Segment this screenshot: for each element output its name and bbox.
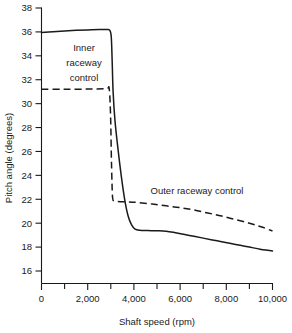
- y-tick-label-34: 34: [21, 50, 32, 61]
- x-axis-minor-ticks: [65, 284, 250, 290]
- y-tick-label-20: 20: [21, 218, 32, 229]
- y-tick-label-38: 38: [21, 2, 32, 13]
- x-tick-label-0: 0: [39, 293, 44, 304]
- y-axis-title: Pitch angle (degrees): [3, 113, 14, 203]
- x-tick-label-4000: 4,000: [122, 293, 146, 304]
- y-tick-label-28: 28: [21, 122, 32, 133]
- y-axis-ticks: [36, 8, 42, 271]
- inner-raceway-label-line-3: control: [70, 72, 99, 83]
- y-tick-label-16: 16: [21, 265, 32, 276]
- y-tick-label-24: 24: [21, 170, 32, 181]
- y-tick-label-30: 30: [21, 98, 32, 109]
- y-tick-label-18: 18: [21, 241, 32, 252]
- x-tick-label-10000: 10,000: [258, 293, 287, 304]
- y-tick-label-22: 22: [21, 194, 32, 205]
- inner-raceway-label-line-2: raceway: [66, 57, 102, 68]
- pitch-angle-vs-shaft-speed-chart: 161820222426283032343638 02,0004,0006,00…: [0, 0, 292, 333]
- inner-raceway-label: Inner raceway control: [66, 42, 102, 83]
- x-axis-tick-labels: 02,0004,0006,0008,00010,000: [39, 293, 287, 304]
- series-line-outer-raceway-control: [42, 87, 273, 231]
- outer-raceway-label-line-1: Outer raceway control: [151, 185, 244, 196]
- y-tick-label-36: 36: [21, 26, 32, 37]
- y-tick-label-26: 26: [21, 146, 32, 157]
- x-tick-label-2000: 2,000: [76, 293, 100, 304]
- x-axis-title: Shaft speed (rpm): [119, 316, 195, 327]
- chart-container: 161820222426283032343638 02,0004,0006,00…: [0, 0, 292, 333]
- inner-raceway-label-line-1: Inner: [73, 42, 95, 53]
- outer-raceway-label: Outer raceway control: [151, 185, 244, 196]
- x-tick-label-6000: 6,000: [168, 293, 192, 304]
- x-tick-label-8000: 8,000: [214, 293, 238, 304]
- y-axis-tick-labels: 161820222426283032343638: [21, 2, 32, 276]
- y-tick-label-32: 32: [21, 74, 32, 85]
